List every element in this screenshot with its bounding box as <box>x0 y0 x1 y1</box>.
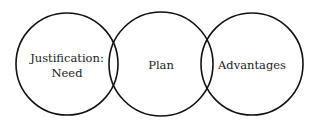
venn-diagram: Justification: Need Plan Advantages <box>0 0 317 123</box>
justification-label-line1: Justification: <box>29 51 104 65</box>
justification-label-line2: Need <box>51 66 83 80</box>
plan-label: Plan <box>148 58 174 72</box>
advantages-label: Advantages <box>217 58 286 72</box>
